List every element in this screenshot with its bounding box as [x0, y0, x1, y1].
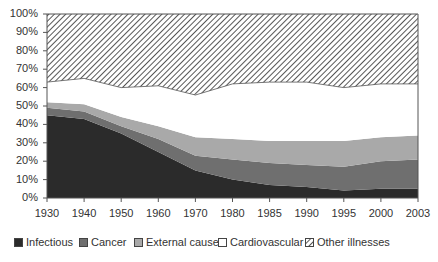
- x-tick-label: 2003: [398, 207, 438, 219]
- x-tick-label: 1980: [213, 207, 253, 219]
- other-illnesses-hatched-swatch-icon: [305, 238, 314, 247]
- x-tick-label: 1970: [175, 207, 215, 219]
- y-tick-label: 90%: [0, 25, 38, 37]
- x-tick-label: 2000: [361, 207, 401, 219]
- legend-item-cardiovascular: Cardiovascular: [218, 236, 303, 248]
- legend: Infectious Cancer External causes Cardio…: [0, 236, 438, 252]
- x-tick-label: 1940: [64, 207, 104, 219]
- legend-item-infectious: Infectious: [14, 236, 73, 248]
- x-tick-label: 1985: [250, 207, 290, 219]
- legend-label: Cancer: [91, 236, 126, 248]
- external-causes-swatch-icon: [134, 238, 143, 247]
- y-tick-label: 80%: [0, 44, 38, 56]
- legend-label: Other illnesses: [317, 236, 390, 248]
- cardiovascular-swatch-icon: [218, 238, 227, 247]
- legend-item-cancer: Cancer: [79, 236, 126, 248]
- y-tick-label: 10%: [0, 173, 38, 185]
- plot-areas: [47, 14, 418, 198]
- legend-label: External causes: [146, 236, 224, 248]
- y-tick-label: 70%: [0, 62, 38, 74]
- x-tick-label: 1930: [27, 207, 67, 219]
- legend-item-external-causes: External causes: [134, 236, 224, 248]
- y-tick-label: 40%: [0, 117, 38, 129]
- y-tick-label: 50%: [0, 99, 38, 111]
- y-tick-label: 100%: [0, 7, 38, 19]
- stacked-area-chart: [0, 0, 438, 262]
- y-tick-label: 30%: [0, 136, 38, 148]
- y-tick-label: 60%: [0, 81, 38, 93]
- legend-label: Infectious: [26, 236, 73, 248]
- infectious-swatch-icon: [14, 238, 23, 247]
- x-tick-label: 1960: [138, 207, 178, 219]
- legend-item-other-illnesses: Other illnesses: [305, 236, 390, 248]
- cancer-swatch-icon: [79, 238, 88, 247]
- x-tick-label: 1990: [287, 207, 327, 219]
- legend-label: Cardiovascular: [230, 236, 303, 248]
- y-tick-label: 0%: [0, 191, 38, 203]
- x-tick-label: 1995: [324, 207, 364, 219]
- x-tick-label: 1950: [101, 207, 141, 219]
- y-tick-label: 20%: [0, 154, 38, 166]
